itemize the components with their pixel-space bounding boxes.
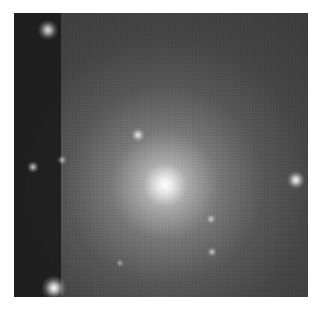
star-bottom-left-icon xyxy=(42,276,66,297)
star-lower-left-icon xyxy=(116,259,124,267)
star-lower-center-2-icon xyxy=(207,247,217,257)
galaxy-image xyxy=(14,13,308,297)
star-upper-center-icon xyxy=(131,128,145,142)
star-strip-edge-icon xyxy=(57,155,67,165)
star-lower-center-1-icon xyxy=(206,214,216,224)
star-top-left-icon xyxy=(38,20,58,40)
star-left-mid-icon xyxy=(27,161,39,173)
star-right-icon xyxy=(287,171,305,189)
